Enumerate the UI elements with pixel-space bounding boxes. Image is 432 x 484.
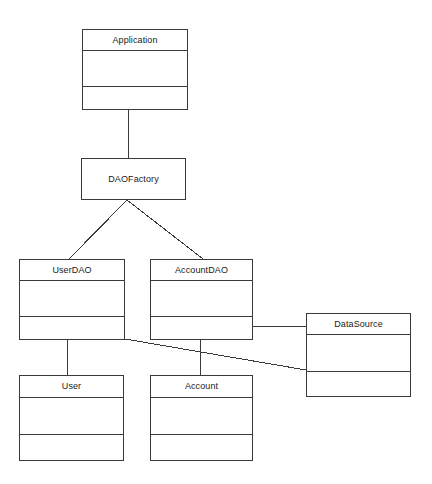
attributes-compartment-user <box>20 397 123 434</box>
operations-compartment-userdao <box>20 316 124 339</box>
uml-class-daofactory[interactable]: DAOFactory <box>81 158 186 200</box>
attributes-compartment-accountdao <box>151 280 252 315</box>
connector-userdao-to-datasource <box>125 339 306 370</box>
attributes-compartment-datasource <box>307 334 410 370</box>
operations-compartment-account <box>151 434 252 460</box>
class-name-userdao: UserDAO <box>20 260 124 280</box>
class-name-application: Application <box>83 30 187 50</box>
operations-compartment-application <box>83 86 187 109</box>
uml-class-accountdao[interactable]: AccountDAO <box>150 259 253 340</box>
uml-class-user[interactable]: User <box>19 375 124 461</box>
connector-daofactory-to-accountdao <box>127 200 203 259</box>
class-name-account: Account <box>151 376 252 397</box>
uml-class-application[interactable]: Application <box>82 29 188 110</box>
operations-compartment-datasource <box>307 371 410 396</box>
uml-class-diagram: ApplicationDAOFactoryUserDAOAccountDAODa… <box>0 0 432 484</box>
attributes-compartment-account <box>151 397 252 434</box>
operations-compartment-user <box>20 434 123 460</box>
class-name-user: User <box>20 376 123 397</box>
attributes-compartment-userdao <box>20 280 124 315</box>
attributes-compartment-application <box>83 50 187 85</box>
uml-class-datasource[interactable]: DataSource <box>306 313 411 397</box>
class-name-accountdao: AccountDAO <box>151 260 252 280</box>
uml-class-account[interactable]: Account <box>150 375 253 461</box>
class-name-daofactory: DAOFactory <box>82 159 185 199</box>
connector-daofactory-to-userdao <box>69 200 127 259</box>
uml-class-userdao[interactable]: UserDAO <box>19 259 125 340</box>
class-name-datasource: DataSource <box>307 314 410 334</box>
operations-compartment-accountdao <box>151 316 252 339</box>
